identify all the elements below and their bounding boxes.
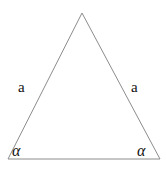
triangle-diagram: a a α α — [0, 0, 166, 175]
side-label-left: a — [18, 80, 25, 95]
angle-label-left: α — [12, 143, 20, 159]
angle-label-right: α — [137, 143, 145, 159]
side-label-right: a — [131, 80, 138, 95]
